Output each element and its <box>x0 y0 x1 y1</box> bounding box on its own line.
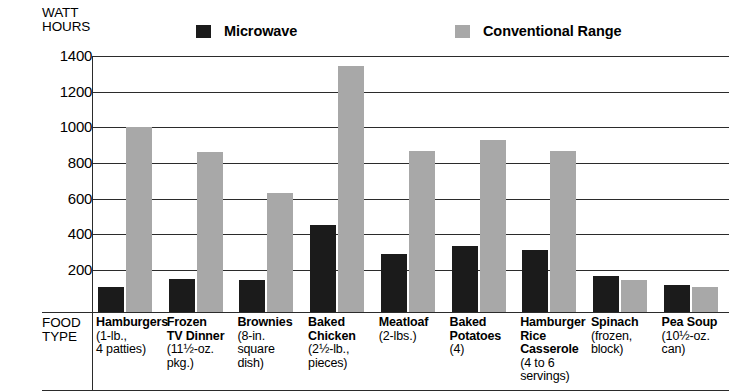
bar-microwave <box>169 279 195 312</box>
category-label-brownies: Brownies (8-in. square dish) <box>237 316 305 370</box>
category-label-hamburger-rice-casserole: Hamburger Rice Casserole (4 to 6 serving… <box>520 316 590 384</box>
category-name: Brownies <box>237 316 305 330</box>
category-sublabel: (frozen, block) <box>591 330 659 357</box>
bar-conventional-range <box>409 151 435 312</box>
bar-conventional-range <box>550 151 576 312</box>
legend-label-microwave: Microwave <box>224 24 297 39</box>
category-sublabel: (4) <box>450 343 518 357</box>
bar-microwave <box>310 225 336 312</box>
x-axis-title: FOOD TYPE <box>42 316 81 344</box>
bar-group-spinach <box>588 56 659 312</box>
category-name: Baked Potatoes <box>450 316 518 343</box>
watt-hours-bar-chart: Microwave Conventional Range WATT HOURS … <box>0 0 732 392</box>
y-tick-label: 1000 <box>48 119 92 134</box>
bar-conventional-range <box>197 152 223 312</box>
category-label-baked-potatoes: Baked Potatoes (4) <box>450 316 518 357</box>
legend-entry-conventional-range: Conventional Range <box>455 24 621 39</box>
category-label-pea-soup: Pea Soup (10½-oz. can) <box>662 316 730 357</box>
category-label-spinach: Spinach (frozen, block) <box>591 316 659 357</box>
bar-group-brownies <box>234 56 305 312</box>
y-tick-800: 800 <box>0 163 92 164</box>
legend-label-conventional-range: Conventional Range <box>483 24 621 39</box>
bar-microwave <box>239 280 265 312</box>
category-name: Frozen TV Dinner <box>167 316 235 343</box>
bar-group-hamburger-rice-casserole <box>517 56 588 312</box>
bar-microwave <box>98 287 124 312</box>
y-tick-label: 1200 <box>48 84 92 99</box>
bar-group-pea-soup <box>659 56 730 312</box>
category-name: Meatloaf <box>379 316 447 330</box>
category-name: Hamburgers <box>96 316 164 330</box>
bar-microwave <box>593 276 619 312</box>
bar-microwave <box>452 246 478 312</box>
category-label-hamburgers: Hamburgers (1-lb., 4 patties) <box>96 316 164 357</box>
bar-group-baked-potatoes <box>447 56 518 312</box>
y-tick-400: 400 <box>0 234 92 235</box>
bar-group-meatloaf <box>376 56 447 312</box>
y-tick-label: 1400 <box>48 48 92 63</box>
microwave-swatch-icon <box>196 25 211 38</box>
bar-group-baked-chicken <box>305 56 376 312</box>
category-sublabel: (8-in. square dish) <box>237 330 305 371</box>
category-sublabel: (4 to 6 servings) <box>520 357 590 384</box>
category-sublabel: (2-lbs.) <box>379 330 447 344</box>
category-name: Baked Chicken <box>308 316 376 343</box>
category-label-frozen-tv-dinner: Frozen TV Dinner (11½-oz. pkg.) <box>167 316 235 370</box>
bar-conventional-range <box>480 140 506 312</box>
bar-group-frozen-tv-dinner <box>164 56 235 312</box>
y-axis-title: WATT HOURS <box>42 6 90 34</box>
bar-conventional-range <box>621 280 647 312</box>
category-labels: Hamburgers (1-lb., 4 patties) Frozen TV … <box>93 316 729 392</box>
category-name: Pea Soup <box>662 316 730 330</box>
category-sublabel: (2½-lb., pieces) <box>308 343 376 370</box>
legend-entry-microwave: Microwave <box>196 24 297 39</box>
bar-group-hamburgers <box>93 56 164 312</box>
bar-conventional-range <box>126 127 152 312</box>
y-tick-label: 400 <box>48 226 92 241</box>
category-label-meatloaf: Meatloaf (2-lbs.) <box>379 316 447 343</box>
bar-conventional-range <box>338 66 364 312</box>
conventional-swatch-icon <box>455 25 470 38</box>
category-sublabel: (1-lb., 4 patties) <box>96 330 164 357</box>
category-sublabel: (10½-oz. can) <box>662 330 730 357</box>
bar-microwave <box>381 254 407 312</box>
bars-layer <box>93 56 729 312</box>
category-name: Spinach <box>591 316 659 330</box>
bar-conventional-range <box>267 193 293 312</box>
y-tick-1400: 1400 <box>0 56 92 57</box>
y-tick-label: 200 <box>48 262 92 277</box>
chart-legend: Microwave Conventional Range <box>0 0 732 56</box>
y-tick-label: 600 <box>48 191 92 206</box>
y-tick-600: 600 <box>0 199 92 200</box>
category-sublabel: (11½-oz. pkg.) <box>167 343 235 370</box>
bar-microwave <box>664 285 690 312</box>
y-tick-200: 200 <box>0 270 92 271</box>
bar-microwave <box>522 250 548 312</box>
category-label-baked-chicken: Baked Chicken (2½-lb., pieces) <box>308 316 376 370</box>
y-tick-1200: 1200 <box>0 92 92 93</box>
y-tick-label: 800 <box>48 155 92 170</box>
x-axis-baseline <box>42 312 729 313</box>
bar-conventional-range <box>692 287 718 312</box>
category-name: Hamburger Rice Casserole <box>520 316 590 357</box>
y-tick-1000: 1000 <box>0 127 92 128</box>
